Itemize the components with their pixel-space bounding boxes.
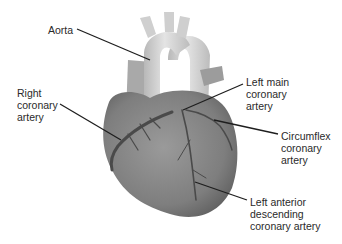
label-right-coronary-artery: Right coronary artery bbox=[17, 87, 58, 123]
label-left-main-coronary-artery: Left main coronary artery bbox=[246, 76, 289, 112]
leader-aorta bbox=[77, 29, 150, 60]
heart-body bbox=[103, 90, 237, 217]
heart-diagram: AortaRight coronary arteryLeft main coro… bbox=[0, 0, 342, 244]
label-left-anterior-descending-coronary-artery: Left anterior descending coronary artery bbox=[250, 196, 321, 232]
label-circumflex-coronary-artery: Circumflex coronary artery bbox=[281, 130, 331, 166]
label-aorta: Aorta bbox=[48, 24, 73, 36]
